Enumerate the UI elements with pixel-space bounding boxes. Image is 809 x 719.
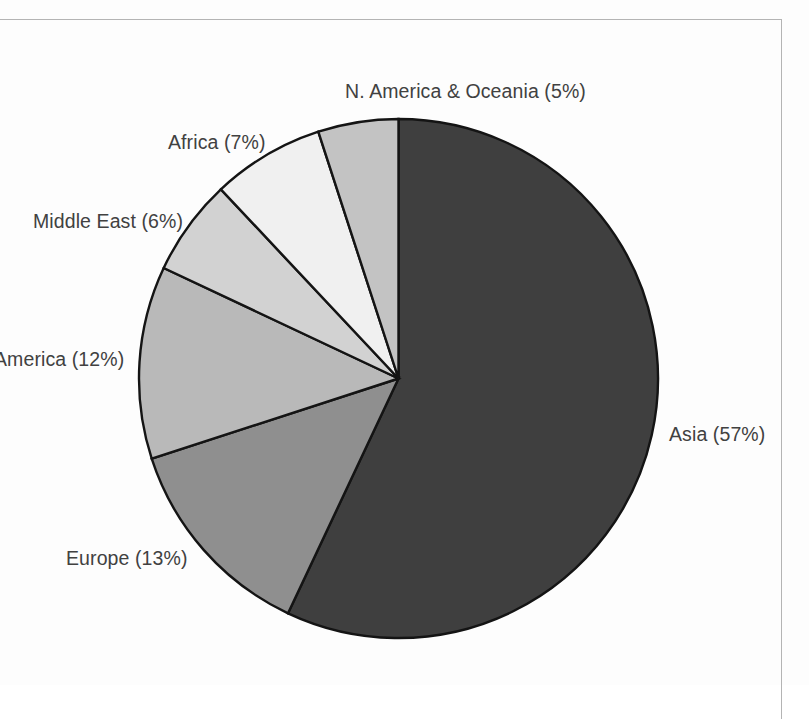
page-caption-clipped [0,678,780,685]
pie-label-asia: Asia (57%) [669,425,765,445]
pie-label-america: America (12%) [0,350,124,370]
pie-label-europe: Europe (13%) [66,549,188,569]
pie-slice-group [139,119,658,638]
pie-label-africa: Africa (7%) [168,133,266,153]
pie-label-middle-east: Middle East (6%) [33,212,183,232]
pie-label-north-america-oceania: N. America & Oceania (5%) [345,82,586,102]
